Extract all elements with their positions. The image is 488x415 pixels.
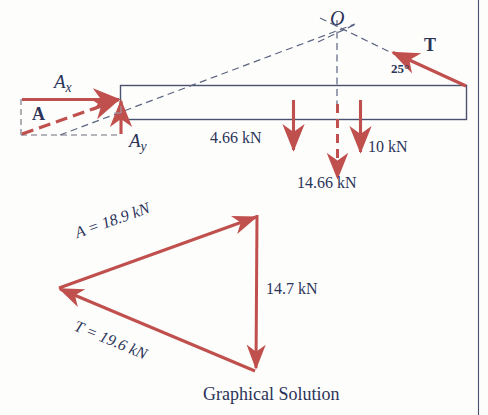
construction-lines [60, 18, 392, 135]
figure-page: O T 25° Ax A Ay 4.66 kN 14.66 kN 10 kN A… [0, 0, 488, 415]
figure-caption: Graphical Solution [203, 385, 339, 403]
load-label-right: 10 kN [368, 139, 408, 155]
ay-base: A [129, 130, 141, 151]
ay-subscript: y [141, 139, 147, 154]
line-of-action-A [60, 24, 355, 135]
statics-figure [0, 0, 488, 415]
load-label-left: 4.66 kN [210, 130, 262, 146]
ax-subscript: x [66, 80, 72, 95]
reaction-resultant-label: A [32, 105, 45, 123]
point-o-label: O [330, 8, 344, 28]
triangle-label-vertical: 14.7 kN [266, 281, 318, 297]
reaction-component-ax-label: Ax [54, 72, 72, 95]
triangle-side-vertical [256, 215, 257, 368]
ax-base: A [54, 71, 66, 92]
load-label-resultant: 14.66 kN [297, 175, 357, 191]
tension-angle-label: 25° [391, 62, 409, 75]
reaction-component-ay-label: Ay [129, 131, 147, 154]
tension-label: T [424, 36, 436, 54]
